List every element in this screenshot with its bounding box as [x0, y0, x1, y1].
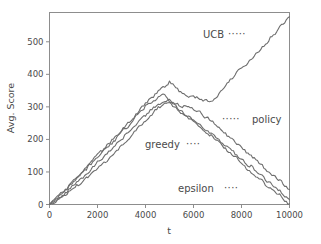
line-chart: 0200040006000800010000 0100200300400500 …	[0, 0, 321, 244]
x-axis-title: t	[167, 225, 171, 236]
annotation-epsilon: epsilon ····	[178, 182, 238, 194]
x-tick-label: 6000	[183, 210, 205, 220]
series-line-ucb	[50, 17, 290, 205]
annotation-policy-leader: ·····	[222, 113, 240, 124]
annotation-ucb-label: UCB	[203, 29, 224, 40]
chart-figure: 0200040006000800010000 0100200300400500 …	[0, 0, 321, 244]
annotation-policy-label: policy	[252, 114, 282, 125]
y-tick-label: 0	[38, 200, 43, 210]
y-axis-title: Avg. Score	[5, 83, 16, 133]
x-tick-label: 0	[47, 210, 52, 220]
plot-frame	[50, 13, 290, 205]
annotation-greedy-label: greedy	[145, 139, 180, 150]
annotation-epsilon-label: epsilon	[178, 183, 214, 194]
y-tick-label: 500	[27, 37, 43, 47]
y-axis-ticks	[46, 42, 50, 205]
y-tick-label: 100	[27, 167, 43, 177]
annotation-ucb: UCB ·····	[203, 28, 246, 40]
annotation-policy: ····· policy	[222, 113, 282, 125]
y-tick-label: 400	[27, 69, 43, 79]
data-series-group	[50, 17, 290, 205]
y-axis-tick-labels: 0100200300400500	[27, 37, 43, 210]
annotation-greedy-leader: ····	[186, 138, 200, 149]
x-tick-label: 4000	[135, 210, 157, 220]
x-tick-label: 8000	[231, 210, 253, 220]
x-tick-label: 2000	[87, 210, 109, 220]
y-tick-label: 300	[27, 102, 43, 112]
x-tick-label: 10000	[276, 210, 303, 220]
x-axis-ticks	[50, 205, 290, 209]
annotation-epsilon-leader: ····	[224, 182, 238, 193]
y-tick-label: 200	[27, 134, 43, 144]
annotation-greedy: greedy ····	[145, 138, 200, 150]
annotation-ucb-leader: ·····	[228, 28, 246, 39]
x-axis-tick-labels: 0200040006000800010000	[47, 210, 303, 220]
